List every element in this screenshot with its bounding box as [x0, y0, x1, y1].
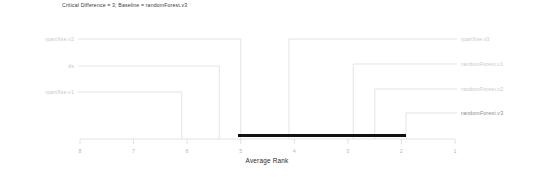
axis-ticks — [80, 139, 455, 144]
connector-randomForest-v3 — [406, 113, 457, 139]
method-label-ds: ds — [0, 63, 74, 69]
tick-label-3: 3 — [341, 148, 355, 154]
tick-label-4: 4 — [287, 148, 301, 154]
tick-label-7: 7 — [127, 148, 141, 154]
tick-label-8: 8 — [73, 148, 87, 154]
method-label-rpartXse-v1: rpartXse.v1 — [0, 89, 74, 95]
method-label-randomForest-v1: randomForest.v1 — [461, 61, 503, 67]
tick-label-6: 6 — [180, 148, 194, 154]
left-connectors — [78, 39, 241, 139]
tick-label-2: 2 — [394, 148, 408, 154]
connector-ds — [78, 66, 219, 139]
method-label-randomForest-v3: randomForest.v3 — [461, 110, 503, 116]
tick-label-5: 5 — [234, 148, 248, 154]
connector-randomForest-v1 — [353, 64, 457, 139]
connector-rpartXse-v1 — [78, 92, 182, 139]
connector-rpartXse-v2 — [78, 39, 241, 139]
method-label-rpartXse-v3: rpartXse.v3 — [461, 36, 490, 42]
axis-title: Average Rank — [207, 157, 327, 164]
critical-difference-diagram: Critical Difference = 3; Baseline = rand… — [0, 0, 535, 177]
method-label-rpartXse-v2: rpartXse.v2 — [0, 36, 74, 42]
right-connectors — [289, 39, 457, 139]
connector-randomForest-v2 — [375, 89, 457, 139]
tick-label-1: 1 — [448, 148, 462, 154]
method-label-randomForest-v2: randomForest.v2 — [461, 86, 503, 92]
